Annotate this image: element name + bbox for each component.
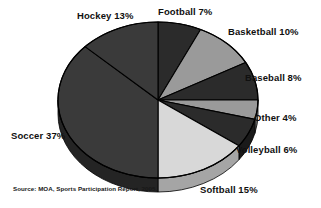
source-note: Source: MOA, Sports Participation Report… — [13, 185, 157, 192]
pie-top-faces — [58, 22, 258, 178]
slice-label-softball: Softball 15% — [200, 185, 258, 195]
slice-label-baseball: Baseball 8% — [245, 73, 302, 83]
pie-chart-figure: Hockey 13% Football 7% Basketball 10% Ba… — [0, 0, 321, 208]
slice-label-hockey: Hockey 13% — [77, 11, 133, 21]
slice-label-soccer: Soccer 37% — [11, 131, 65, 141]
slice-label-other: Other 4% — [254, 113, 297, 123]
slice-label-volleyball: Volleyball 6% — [236, 145, 297, 155]
slice-label-basketball: Basketball 10% — [228, 27, 299, 37]
slice-label-football: Football 7% — [158, 7, 212, 17]
